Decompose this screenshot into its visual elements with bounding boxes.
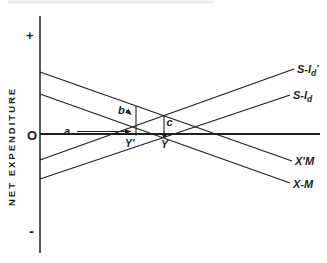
equilibrium-dot	[162, 133, 166, 137]
series-label-s-id: S-Id	[293, 89, 313, 104]
label-y-prime: Y'	[125, 137, 135, 149]
plus-sign: +	[26, 28, 34, 43]
label-a: a	[64, 125, 70, 137]
net-expenditure-diagram: S-Id'S-IdX'MX-MabcY'Y NET EXPENDITURE + …	[0, 0, 327, 263]
minus-sign: -	[29, 222, 34, 239]
label-b: b	[118, 104, 125, 116]
series-label-x-m: X-M	[292, 178, 314, 190]
scan-artifact	[8, 1, 213, 4]
chart-render-layer: S-Id'S-IdX'MX-MabcY'Y	[8, 1, 320, 254]
label-c: c	[167, 116, 173, 128]
y-axis-title: NET EXPENDITURE	[6, 87, 17, 206]
figure-container: S-Id'S-IdX'MX-MabcY'Y NET EXPENDITURE + …	[0, 0, 327, 263]
b-arrow	[126, 110, 131, 115]
origin-label: O	[27, 128, 37, 143]
series-label-s-id-prime: S-Id'	[297, 62, 319, 78]
label-y: Y	[161, 138, 169, 150]
series-label-x-prime-m: X'M	[294, 155, 315, 167]
